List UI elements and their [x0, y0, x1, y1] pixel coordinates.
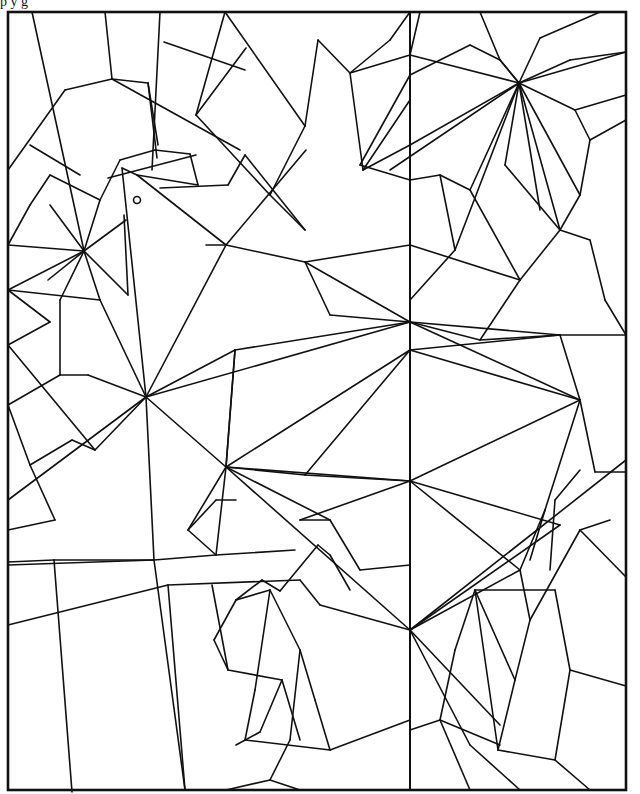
line-segment: [360, 165, 410, 180]
line-segment: [305, 245, 410, 262]
line-segment: [196, 12, 225, 115]
line-segment: [300, 580, 320, 605]
line-segment: [363, 145, 410, 170]
line-segment: [519, 38, 540, 83]
line-segment: [580, 530, 626, 577]
line-segment: [95, 397, 146, 450]
line-segment: [60, 251, 84, 300]
line-segment: [315, 700, 330, 750]
line-segment: [330, 555, 350, 590]
line-segment: [350, 73, 363, 170]
line-segment: [410, 322, 580, 400]
line-segment: [216, 550, 295, 555]
line-segment: [455, 83, 519, 250]
line-segment: [363, 100, 410, 170]
line-segment: [305, 475, 410, 481]
line-segment: [235, 322, 410, 350]
line-segment: [270, 195, 305, 230]
line-segment: [560, 230, 590, 240]
line-segment: [155, 150, 190, 154]
line-segment: [410, 630, 500, 725]
line-segment: [515, 620, 530, 680]
line-segment: [555, 470, 580, 500]
stained-glass-bird-coloring-page: [0, 0, 640, 794]
line-segment: [226, 150, 306, 245]
line-segment: [8, 375, 60, 405]
line-segment: [228, 670, 282, 680]
line-segment: [270, 590, 300, 650]
line-segment: [30, 175, 50, 205]
line-segment: [410, 720, 440, 730]
line-segment: [555, 760, 590, 790]
line-segment: [270, 126, 305, 195]
line-segment: [540, 12, 600, 38]
line-segment: [318, 40, 350, 73]
line-segment: [196, 48, 246, 115]
line-segment: [146, 322, 410, 397]
line-segment: [190, 154, 198, 185]
bird-eye-circle: [134, 197, 141, 204]
line-segment: [410, 350, 580, 400]
line-segment: [196, 115, 270, 195]
line-segment: [30, 465, 55, 520]
line-segment: [305, 262, 410, 322]
line-segments-group: [8, 12, 626, 792]
line-segment: [8, 290, 50, 322]
line-segment: [480, 12, 500, 60]
line-segment: [105, 12, 112, 79]
line-segment: [30, 440, 72, 465]
line-segment: [226, 350, 410, 467]
line-segment: [580, 400, 595, 472]
line-segment: [8, 322, 50, 345]
outer-frame: [8, 12, 626, 790]
line-segment: [300, 481, 410, 520]
line-segment: [54, 560, 72, 792]
line-segment: [410, 175, 440, 180]
line-segment: [65, 79, 112, 90]
line-segment: [350, 55, 410, 73]
line-segment: [410, 55, 519, 83]
line-segment: [580, 140, 590, 195]
line-segment: [255, 590, 270, 690]
line-segment: [330, 720, 410, 750]
line-segment: [519, 60, 570, 83]
line-segment: [168, 580, 300, 585]
line-segment: [545, 400, 580, 510]
line-segment: [214, 600, 236, 640]
line-segment: [8, 245, 84, 251]
line-segment: [410, 45, 470, 75]
line-segment: [605, 300, 626, 335]
line-segment: [154, 555, 216, 560]
line-segment: [8, 405, 30, 465]
line-segment: [8, 90, 65, 170]
line-segment: [498, 680, 515, 750]
line-segment: [280, 545, 318, 591]
line-segment: [305, 350, 410, 475]
line-segment: [575, 95, 626, 110]
line-segment: [410, 335, 560, 350]
line-segment: [226, 350, 235, 467]
line-segment: [236, 732, 260, 745]
line-segment: [410, 400, 580, 481]
line-segment: [8, 290, 100, 300]
line-segment: [520, 230, 560, 280]
line-segment: [225, 12, 305, 126]
line-segment: [270, 740, 290, 780]
line-segment: [300, 650, 315, 700]
line-segment: [560, 335, 580, 400]
line-segment: [188, 500, 216, 530]
line-segment: [305, 40, 318, 126]
line-segment: [440, 175, 470, 190]
line-segment: [390, 12, 410, 40]
line-segment: [410, 83, 519, 145]
line-segment: [8, 560, 54, 562]
line-segment: [570, 670, 626, 686]
line-segment: [590, 240, 605, 300]
line-segment: [530, 530, 580, 620]
line-segment: [8, 397, 146, 500]
line-segment: [455, 590, 475, 650]
line-segment: [100, 160, 120, 200]
line-segment: [260, 680, 282, 732]
line-segment: [146, 245, 226, 397]
line-segment: [520, 570, 530, 620]
